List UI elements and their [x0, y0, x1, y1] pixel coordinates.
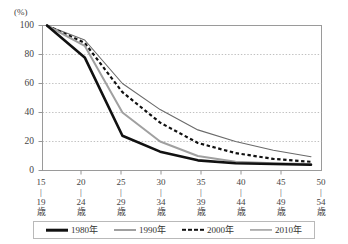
x-axis-ticks	[81, 171, 281, 175]
x-tick-50-54: 50 | 54 歳	[306, 177, 336, 217]
x-tick-45-49: 45 | 49 歳	[266, 177, 296, 217]
legend-item-2000[interactable]: 2000年	[182, 226, 234, 235]
legend-label-1980: 1980年	[71, 226, 98, 235]
legend-line-swatch-1980	[46, 226, 68, 234]
legend-line-swatch-1990	[114, 226, 136, 234]
x-tick-20-24: 20 | 24 歳	[66, 177, 96, 217]
legend-label-2000: 2000年	[207, 226, 234, 235]
legend-item-1990[interactable]: 1990年	[114, 226, 166, 235]
legend-label-1990: 1990年	[139, 226, 166, 235]
x-tick-25-29: 25 | 29 歳	[106, 177, 136, 217]
legend-label-2010: 2010年	[275, 226, 302, 235]
line-chart: (%) 100 80 60 40 20 0	[0, 0, 348, 244]
legend-line-swatch-2010	[250, 226, 272, 234]
x-tick-15-19: 15 | 19 歳	[26, 177, 56, 217]
x-tick-35-39: 35 | 39 歳	[186, 177, 216, 217]
plot-frame	[43, 26, 322, 171]
legend: 1980年 1990年 2000年 2010年	[33, 221, 315, 239]
y-axis-ticks	[39, 26, 43, 171]
legend-line-swatch-2000	[182, 226, 204, 234]
legend-item-1980[interactable]: 1980年	[46, 226, 98, 235]
x-tick-40-44: 40 | 44 歳	[226, 177, 256, 217]
x-tick-30-34: 30 | 34 歳	[146, 177, 176, 217]
legend-item-2010[interactable]: 2010年	[250, 226, 302, 235]
